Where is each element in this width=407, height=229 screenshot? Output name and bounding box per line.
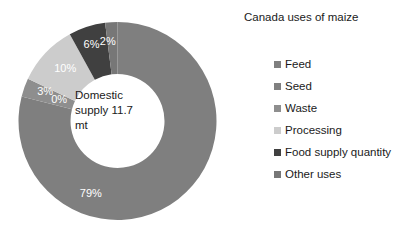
legend-swatch-icon [274,105,281,112]
slice-data-label: 0% [51,93,67,105]
legend-items: FeedSeedWasteProcessingFood supply quant… [274,53,407,185]
legend-item-label: Other uses [285,168,341,180]
legend-item[interactable]: Food supply quantity [274,141,407,163]
slice-data-label: 6% [84,38,100,50]
slice-data-label: 79% [80,187,102,199]
slice-data-label: 3% [37,85,53,97]
donut-chart: 79%0%3%10%6%2% Domestic supply 11.7 mt [0,0,238,229]
legend-item-label: Seed [285,80,312,92]
slice-data-label: 10% [54,62,76,74]
legend-item[interactable]: Waste [274,97,407,119]
legend-item[interactable]: Feed [274,53,407,75]
legend-swatch-icon [274,127,281,134]
legend-item-label: Waste [285,102,317,114]
chart-figure: 79%0%3%10%6%2% Domestic supply 11.7 mt C… [0,0,407,229]
center-label-line-1: Domestic [75,88,159,103]
legend-swatch-icon [274,61,281,68]
donut-center-label: Domestic supply 11.7 mt [75,88,159,154]
legend-item-label: Food supply quantity [285,146,391,158]
legend-item[interactable]: Seed [274,75,407,97]
legend-item-label: Processing [285,124,342,136]
legend-swatch-icon [274,149,281,156]
legend-title: Canada uses of maize [244,11,358,23]
center-label-line-2: supply 11.7 [75,103,159,118]
legend-item-label: Feed [285,58,311,70]
slice-data-label: 2% [100,35,116,47]
legend-swatch-icon [274,171,281,178]
legend-swatch-icon [274,83,281,90]
chart-legend: Canada uses of maize FeedSeedWasteProces… [238,0,407,229]
legend-item[interactable]: Processing [274,119,407,141]
legend-item[interactable]: Other uses [274,163,407,185]
center-label-line-3: mt [75,118,159,133]
